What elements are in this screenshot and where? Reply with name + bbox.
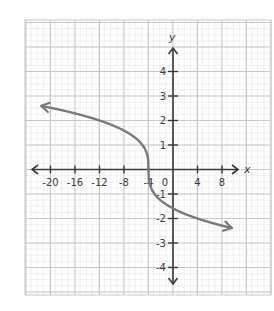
y-tick-label: -4	[156, 262, 166, 273]
y-tick-label: 4	[160, 66, 166, 77]
y-tick-label: -2	[156, 213, 166, 224]
y-tick-label: 1	[160, 140, 166, 151]
y-axis-label: y	[168, 31, 176, 44]
x-tick-label: 0	[162, 177, 168, 188]
x-tick-label: 4	[194, 177, 200, 188]
x-tick-label: -20	[42, 177, 58, 188]
function-curve	[41, 106, 231, 228]
y-tick-label: 2	[160, 115, 166, 126]
x-tick-label: -12	[91, 177, 107, 188]
x-axis-label: x	[243, 163, 251, 176]
y-tick-label: 3	[160, 91, 166, 102]
cube-root-graph: x y -20-16-12-8-4048-4-3-2-11234	[0, 0, 274, 311]
x-tick-label: -8	[119, 177, 129, 188]
x-tick-label: -16	[67, 177, 83, 188]
y-tick-label: -3	[156, 238, 166, 249]
x-tick-label: 8	[219, 177, 225, 188]
